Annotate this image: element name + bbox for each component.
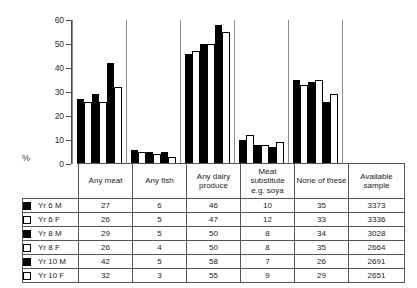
- bar-4-3: [315, 80, 323, 164]
- legend-label-3: Yr 8 F: [38, 243, 60, 253]
- y-tick-mark-10: [66, 140, 71, 141]
- cell-any-meat-5: 32: [79, 269, 133, 283]
- legend-label-5: Yr 10 F: [38, 271, 64, 281]
- y-tick-label-40: 40: [42, 64, 64, 73]
- bar-2-3: [207, 44, 215, 164]
- cell-any-fish-5: 3: [133, 269, 187, 283]
- header-any-dairy-line1: Any dairy: [197, 172, 230, 181]
- cell-any-meat-4: 42: [79, 255, 133, 269]
- header-any-meat: Any meat: [79, 164, 133, 199]
- header-any-fish-line1: Any fish: [145, 176, 173, 185]
- cell-none-of-these-3: 35: [295, 241, 349, 255]
- cell-meat-sub-5: 9: [241, 269, 295, 283]
- cell-any-dairy-0: 46: [187, 199, 241, 213]
- cell-available-sample-0: 3373: [349, 199, 405, 213]
- legend-cell-1: Yr 6 F: [23, 213, 79, 227]
- header-available-sample-line2: sample: [364, 181, 390, 190]
- bar-0-0: [77, 99, 85, 164]
- y-tick-mark-50: [66, 44, 71, 45]
- header-any-fish: Any fish: [133, 164, 187, 199]
- bar-group-1: [126, 20, 180, 164]
- cell-meat-sub-3: 8: [241, 241, 295, 255]
- legend-label-2: Yr 8 M: [38, 229, 62, 239]
- bar-4-4: [323, 102, 331, 164]
- header-available-sample-line1: Available: [360, 172, 392, 181]
- cell-any-meat-0: 27: [79, 199, 133, 213]
- bar-3-0: [239, 140, 247, 164]
- group-divider-0: [72, 20, 73, 164]
- bar-0-3: [99, 102, 107, 164]
- y-tick-label-60: 60: [42, 16, 64, 25]
- bar-3-2: [254, 145, 262, 164]
- table-row: Yr 8 F264508352664: [23, 241, 405, 255]
- table-row: Yr 10 M425587262691: [23, 255, 405, 269]
- legend-cell-4: Yr 10 M: [23, 255, 79, 269]
- cell-any-meat-2: 29: [79, 227, 133, 241]
- legend-label-4: Yr 10 M: [38, 257, 66, 267]
- bar-4-5: [330, 94, 338, 164]
- cell-any-fish-1: 5: [133, 213, 187, 227]
- cell-meat-sub-0: 10: [241, 199, 295, 213]
- bar-4-2: [308, 82, 316, 164]
- legend-cell-3: Yr 8 F: [23, 241, 79, 255]
- header-meat-substitute-line1: Meat: [259, 167, 277, 176]
- bar-2-4: [215, 25, 223, 164]
- cell-none-of-these-1: 33: [295, 213, 349, 227]
- legend-label-1: Yr 6 F: [38, 215, 60, 225]
- header-meat-substitute-line3: e.g. soya: [251, 186, 283, 195]
- legend-swatch-icon-1: [23, 216, 31, 224]
- cell-any-meat-3: 26: [79, 241, 133, 255]
- group-divider-end: [342, 20, 343, 164]
- y-axis-title: %: [22, 154, 30, 163]
- cell-available-sample-1: 3336: [349, 213, 405, 227]
- cell-any-dairy-1: 47: [187, 213, 241, 227]
- bar-1-0: [131, 150, 139, 164]
- bar-group-3: [234, 20, 288, 164]
- header-any-dairy-line2: produce: [199, 181, 228, 190]
- group-divider-4: [288, 20, 289, 164]
- cell-available-sample-4: 2691: [349, 255, 405, 269]
- cell-any-fish-0: 6: [133, 199, 187, 213]
- table-row: Yr 10 F323559292651: [23, 269, 405, 283]
- bar-2-5: [222, 32, 230, 164]
- cell-any-fish-4: 5: [133, 255, 187, 269]
- cell-any-meat-1: 26: [79, 213, 133, 227]
- cell-meat-sub-4: 7: [241, 255, 295, 269]
- bar-group-2: [180, 20, 234, 164]
- table-row: Yr 6 F2654712333336: [23, 213, 405, 227]
- y-tick-mark-30: [66, 92, 71, 93]
- legend-cell-5: Yr 10 F: [23, 269, 79, 283]
- cell-none-of-these-5: 29: [295, 269, 349, 283]
- table-row: Yr 6 M2764610353373: [23, 199, 405, 213]
- bar-chart: % 6050403020100: [0, 0, 417, 166]
- bar-2-1: [192, 51, 200, 164]
- bar-3-4: [269, 147, 277, 164]
- cell-meat-sub-1: 12: [241, 213, 295, 227]
- bar-0-2: [92, 94, 100, 164]
- legend-swatch-icon-3: [23, 244, 31, 252]
- cell-available-sample-5: 2651: [349, 269, 405, 283]
- cell-meat-sub-2: 8: [241, 227, 295, 241]
- bar-2-0: [185, 54, 193, 164]
- cell-any-dairy-4: 58: [187, 255, 241, 269]
- y-tick-label-10: 10: [42, 136, 64, 145]
- legend-cell-0: Yr 6 M: [23, 199, 79, 213]
- cell-any-fish-2: 5: [133, 227, 187, 241]
- bar-2-2: [200, 44, 208, 164]
- cell-any-dairy-2: 50: [187, 227, 241, 241]
- y-tick-label-30: 30: [42, 88, 64, 97]
- header-none-of-these: None of these: [295, 164, 349, 199]
- data-table-wrap: Any meat Any fish Any dairy produce Meat…: [22, 163, 401, 283]
- cell-any-dairy-5: 55: [187, 269, 241, 283]
- bar-0-1: [84, 102, 92, 164]
- y-tick-label-50: 50: [42, 40, 64, 49]
- table-row: Yr 8 M295508343028: [23, 227, 405, 241]
- chart-page: % 6050403020100 Any meat Any fish: [0, 0, 417, 288]
- y-tick-mark-60: [66, 20, 71, 21]
- cell-none-of-these-4: 26: [295, 255, 349, 269]
- cell-available-sample-2: 3028: [349, 227, 405, 241]
- header-any-meat-line1: Any meat: [89, 176, 123, 185]
- header-legend-corner: [23, 164, 79, 199]
- y-tick-mark-40: [66, 68, 71, 69]
- table-body: Yr 6 M2764610353373Yr 6 F2654712333336Yr…: [23, 199, 405, 283]
